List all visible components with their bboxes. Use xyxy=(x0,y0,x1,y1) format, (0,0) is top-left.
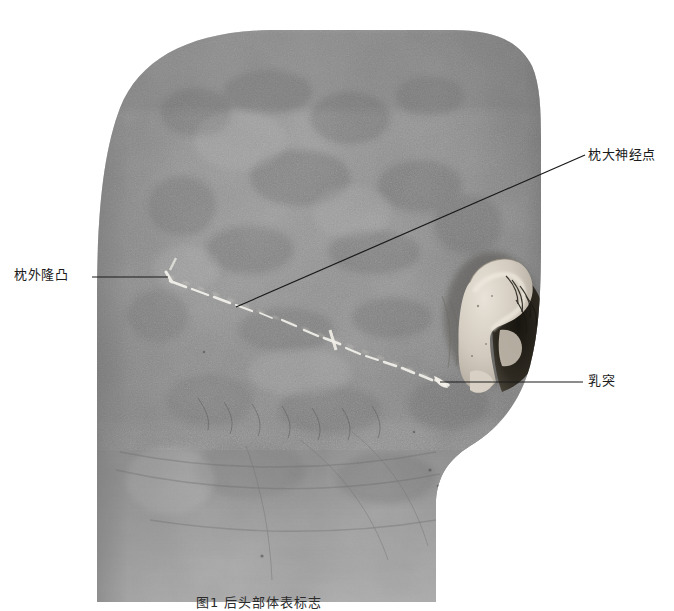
label-mastoid-process: 乳突 xyxy=(588,374,615,387)
label-external-occipital-protuberance: 枕外隆凸 xyxy=(14,268,68,281)
figure-caption: 图1 后头部体表标志 xyxy=(196,592,322,611)
label-greater-occipital-nerve-point: 枕大神经点 xyxy=(588,148,656,161)
